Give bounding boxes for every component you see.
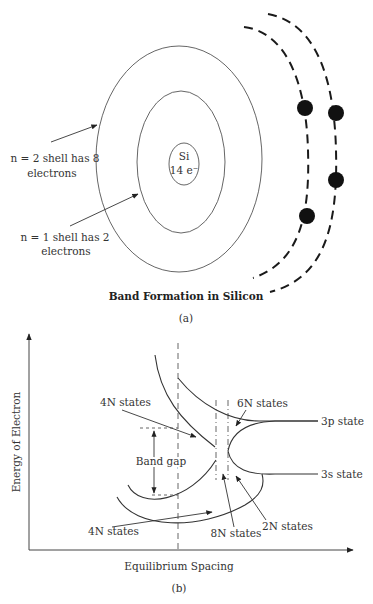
band-gap-label: Band gap	[136, 455, 187, 467]
panel-a-title: Band Formation in Silicon	[109, 290, 264, 302]
n1-label-line2: electrons	[41, 245, 90, 257]
n1-label-arrow	[70, 194, 138, 226]
panel-b-caption: (b)	[172, 582, 187, 594]
energy-band-diagram: Energy of Electron Equilibrium Spacing (…	[10, 334, 364, 594]
x-axis-label: Equilibrium Spacing	[124, 560, 234, 572]
band-formation-figure: Si 14 e⁻ n = 2 shell has 8 electrons n =…	[0, 0, 373, 604]
nucleus-charge: 14 e⁻	[170, 164, 198, 176]
n1-shell	[137, 91, 225, 233]
3s-upper-curve	[228, 451, 318, 474]
valence-electron	[299, 208, 315, 224]
3p-level	[228, 421, 318, 451]
valence-electron	[328, 172, 344, 188]
2n-arrow	[236, 476, 266, 520]
y-axis-label: Energy of Electron	[10, 391, 22, 492]
8n-arrow	[223, 474, 234, 527]
valence-orbit-outer	[268, 14, 336, 292]
2n-states-label: 2N states	[262, 520, 313, 532]
n2-label-line1: n = 2 shell has 8	[10, 152, 99, 164]
nucleus-symbol: Si	[179, 150, 190, 162]
valence-orbit-inner	[244, 27, 308, 278]
lower-4n-arrow	[112, 512, 212, 527]
panel-a-caption: (a)	[179, 312, 193, 324]
upper-4n-states-label: 4N states	[100, 396, 151, 408]
3p-state-label: 3p state	[321, 415, 364, 427]
n1-label-line1: n = 1 shell has 2	[20, 231, 109, 243]
n2-label-line2: electrons	[27, 167, 76, 179]
n2-label-arrow	[51, 125, 97, 142]
valence-electron	[328, 105, 344, 121]
8n-states-label: 8N states	[211, 527, 262, 539]
upper-4n-arrow	[122, 410, 196, 437]
atom-diagram: Si 14 e⁻ n = 2 shell has 8 electrons n =…	[10, 14, 344, 324]
valence-electron	[297, 100, 313, 116]
6n-states-label: 6N states	[237, 397, 288, 409]
3s-state-label: 3s state	[321, 468, 363, 480]
